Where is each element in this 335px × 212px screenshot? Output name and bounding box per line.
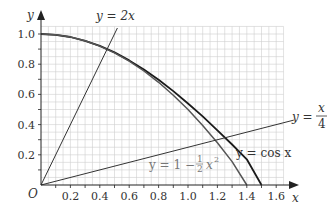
y-axis-arrow-icon	[37, 10, 45, 20]
label-parabola-lhs: y = 1 −	[148, 158, 195, 172]
x-tick-label: 1.6	[267, 190, 285, 203]
label-y-x-over-4: y = x 4	[291, 101, 327, 131]
line-y-2x	[41, 28, 117, 185]
x-axis-arrow-icon	[289, 181, 299, 189]
x-axis-label: x	[292, 191, 299, 205]
x-tick-label: 0.8	[150, 190, 168, 203]
label-parabola-num: 1	[197, 154, 203, 164]
x-tick-label: 1.4	[238, 190, 256, 203]
y-tick-label: 0.2	[18, 149, 36, 162]
x-tick-label: 1.0	[179, 190, 197, 203]
label-y-x-over-4-num: x	[318, 101, 325, 115]
y-tick-label: 0.4	[18, 119, 36, 132]
y-tick-label: 1.0	[18, 28, 36, 41]
label-y-cos-x: y = cos x	[235, 146, 291, 160]
x-tick-label: 1.2	[209, 190, 227, 203]
label-y-x-over-4-lhs: y =	[291, 110, 313, 124]
label-y-2x-text: y = 2x	[95, 9, 135, 23]
chart: 0.20.40.60.81.01.21.41.60.20.40.60.81.0 …	[0, 0, 335, 212]
y-tick-label: 0.6	[18, 88, 36, 101]
x-tick-label: 0.2	[62, 190, 80, 203]
label-y-x-over-4-den: 4	[318, 117, 326, 131]
label-parabola-den: 2	[197, 164, 203, 174]
y-tick-label: 0.8	[18, 58, 36, 71]
label-y-2x: y = 2x	[95, 9, 135, 23]
y-axis-label: y	[26, 8, 34, 22]
label-parabola-exp: 2	[214, 155, 219, 164]
x-tick-label: 0.6	[120, 190, 138, 203]
x-tick-label: 0.4	[91, 190, 109, 203]
origin-label: O	[28, 187, 38, 201]
label-y-cos-x-text: y = cos x	[235, 146, 291, 160]
label-parabola-x: x	[206, 158, 213, 172]
